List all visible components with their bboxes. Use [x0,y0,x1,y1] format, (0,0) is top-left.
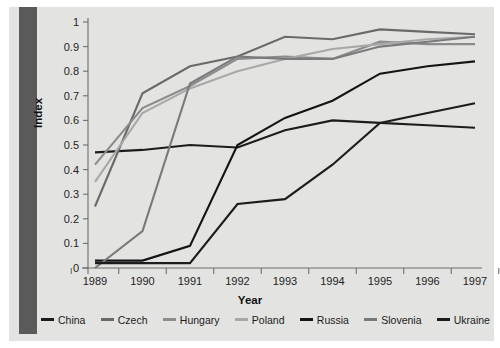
y-tick-label: 0 [73,262,79,274]
chart-legend: ChinaCzechHungaryPolandRussiaSloveniaUkr… [37,311,493,328]
series-line-slovenia [95,37,475,268]
legend-label: Ukraine [454,314,490,326]
y-tick-label: 0.6 [64,114,79,126]
legend-item-poland[interactable]: Poland [235,314,285,326]
legend-swatch-icon [300,318,313,321]
y-axis-ticks: 00.10.20.30.40.50.60.70.80.91 [64,16,88,274]
x-tick-label: 1990 [130,275,154,287]
y-tick-label: 0.1 [64,237,79,249]
x-axis-title: Year [0,294,500,306]
legend-swatch-icon [437,318,450,321]
legend-label: Slovenia [381,314,421,326]
legend-swatch-icon [235,318,248,321]
y-tick-label: 0.5 [64,139,79,151]
x-tick-label: 1992 [225,275,249,287]
x-tick-label: 1989 [83,275,107,287]
x-tick-label: 1995 [368,275,392,287]
x-tick-label: 1997 [463,275,487,287]
x-tick-label: 1993 [273,275,297,287]
legend-label: China [58,314,85,326]
y-tick-label: 0.9 [64,41,79,53]
legend-swatch-icon [41,318,54,321]
legend-item-ukraine[interactable]: Ukraine [437,314,490,326]
legend-item-russia[interactable]: Russia [300,314,349,326]
series-line-russia [95,61,475,260]
x-tick-label: 1991 [178,275,202,287]
legend-swatch-icon [364,318,377,321]
y-tick-label: 1 [73,16,79,28]
legend-item-czech[interactable]: Czech [101,314,148,326]
legend-label: Hungary [180,314,220,326]
y-axis-title: Index [32,98,44,128]
y-tick-label: 0.3 [64,188,79,200]
legend-item-hungary[interactable]: Hungary [163,314,220,326]
legend-label: Poland [252,314,285,326]
series-line-china [95,120,475,152]
legend-swatch-icon [163,318,176,321]
legend-item-china[interactable]: China [41,314,85,326]
y-tick-label: 0.7 [64,90,79,102]
data-series-group [95,29,475,268]
x-tick-label: 1996 [415,275,439,287]
legend-swatch-icon [101,318,114,321]
legend-item-slovenia[interactable]: Slovenia [364,314,421,326]
series-line-ukraine [95,103,475,263]
x-axis-ticks: 198919901991199219931994199519961997 [71,268,499,287]
series-line-hungary [95,42,475,165]
legend-label: Russia [317,314,349,326]
y-tick-label: 0.2 [64,213,79,225]
x-tick-label: 1994 [320,275,344,287]
chart-figure: 00.10.20.30.40.50.60.70.80.91 1989199019… [0,0,500,348]
legend-label: Czech [118,314,148,326]
y-tick-label: 0.4 [64,164,79,176]
y-tick-label: 0.8 [64,65,79,77]
